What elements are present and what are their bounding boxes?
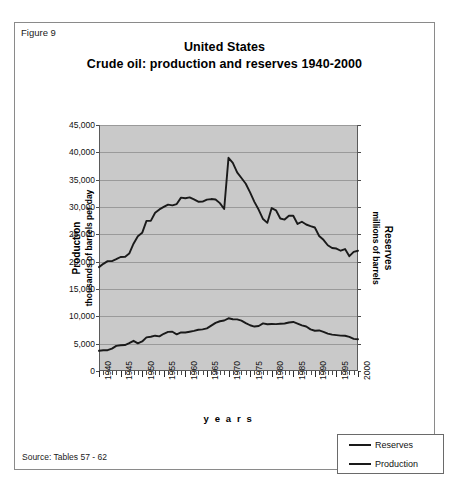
y-axis-title-line: Production (71, 190, 83, 307)
x-axis-tick-minor (129, 371, 130, 375)
x-axis-tick-minor (108, 371, 109, 375)
series-line-reserves (99, 158, 358, 267)
chart-title-line1: United States (15, 39, 434, 56)
y-axis-tick-mark (96, 125, 99, 126)
y2-axis-tick-mark (358, 125, 361, 126)
x-axis-tick-minor (246, 371, 247, 375)
y-axis-tick-mark (96, 262, 99, 263)
x-axis-tick-minor (211, 371, 212, 375)
x-axis-tick-minor (254, 371, 255, 375)
x-axis-tick-major (185, 371, 186, 377)
x-axis-tick-minor (341, 371, 342, 375)
y2-axis-tick-mark (358, 234, 361, 235)
y-axis-tick-mark (96, 234, 99, 235)
legend-item: Production (338, 454, 443, 473)
legend-line-icon (349, 463, 371, 465)
x-axis-tick-minor (134, 371, 135, 375)
x-axis-tick-major (142, 371, 143, 377)
x-axis-tick-minor (177, 371, 178, 375)
y-axis-tick-label: 45,000 (69, 120, 95, 130)
y-axis-tick-mark (96, 180, 99, 181)
y-axis-tick-label: 40,000 (69, 147, 95, 157)
x-axis-tick-minor (116, 371, 117, 375)
x-axis-tick-minor (328, 371, 329, 375)
y-axis-tick-mark (96, 289, 99, 290)
x-axis-tick-minor (267, 371, 268, 375)
x-axis-tick-minor (216, 371, 217, 375)
x-axis-tick-label: 2000 (362, 361, 372, 380)
legend-line-icon (349, 444, 371, 446)
legend-item: Reserves (338, 435, 443, 454)
y2-axis-title-line: Reserves (381, 211, 393, 284)
x-axis-tick-minor (103, 371, 104, 375)
x-axis-tick-major (99, 371, 100, 377)
x-axis-tick-minor (125, 371, 126, 375)
x-axis-tick-minor (237, 371, 238, 375)
y-axis-tick-label: 0 (90, 366, 95, 376)
y-axis-title-line: thousands of barrels per day (83, 190, 95, 307)
x-axis-tick-major (229, 371, 230, 377)
x-axis-title: y e a r s (99, 413, 358, 424)
x-axis-tick-major (207, 371, 208, 377)
x-axis-tick-minor (285, 371, 286, 375)
x-axis-tick-minor (172, 371, 173, 375)
x-axis-tick-minor (220, 371, 221, 375)
x-axis-tick-major (121, 371, 122, 377)
y2-axis-tick-mark (358, 262, 361, 263)
x-axis-tick-minor (311, 371, 312, 375)
y-axis-tick-mark (96, 316, 99, 317)
x-axis-tick-minor (159, 371, 160, 375)
plot-wrapper: 05,00010,00015,00020,00025,00030,00035,0… (99, 125, 358, 371)
y-axis-tick-mark (96, 344, 99, 345)
x-axis-tick-minor (181, 371, 182, 375)
x-axis-tick-minor (349, 371, 350, 375)
y2-axis-tick-mark (358, 180, 361, 181)
x-axis-tick-major (336, 371, 337, 377)
x-axis-tick-minor (155, 371, 156, 375)
x-axis-tick-minor (168, 371, 169, 375)
x-axis-tick-minor (276, 371, 277, 375)
y-axis-title: Productionthousands of barrels per day (71, 190, 95, 307)
x-axis-tick-minor (151, 371, 152, 375)
x-axis-tick-minor (319, 371, 320, 375)
y2-axis-title: Reservesmillions of barrels (369, 211, 393, 284)
y2-axis-tick-mark (358, 152, 361, 153)
x-axis-tick-minor (323, 371, 324, 375)
figure-frame: Figure 9 United States Crude oil: produc… (14, 22, 435, 470)
x-axis-tick-minor (289, 371, 290, 375)
figure-label: Figure 9 (21, 27, 56, 38)
x-axis-tick-major (358, 371, 359, 377)
x-axis-tick-minor (302, 371, 303, 375)
y-axis-tick-label: 35,000 (69, 175, 95, 185)
x-axis-tick-major (315, 371, 316, 377)
x-axis-tick-minor (190, 371, 191, 375)
x-axis-tick-minor (345, 371, 346, 375)
y-axis-tick-label: 5,000 (74, 339, 95, 349)
source-note: Source: Tables 57 - 62 (22, 452, 107, 462)
x-axis-tick-minor (233, 371, 234, 375)
x-axis-tick-major (272, 371, 273, 377)
y-axis-tick-mark (96, 207, 99, 208)
x-axis-tick-major (164, 371, 165, 377)
chart-lines (99, 125, 358, 371)
y2-axis-tick-mark (358, 344, 361, 345)
x-axis-tick-minor (298, 371, 299, 375)
chart-legend: ReservesProduction (337, 434, 444, 474)
x-axis-tick-minor (198, 371, 199, 375)
x-axis-tick-minor (112, 371, 113, 375)
x-axis-tick-major (250, 371, 251, 377)
x-axis-tick-minor (224, 371, 225, 375)
x-axis-tick-minor (138, 371, 139, 375)
x-axis-tick-major (293, 371, 294, 377)
y2-axis-tick-mark (358, 316, 361, 317)
chart-title-line2: Crude oil: production and reserves 1940-… (15, 56, 434, 73)
x-axis-tick-minor (146, 371, 147, 375)
x-axis-tick-minor (332, 371, 333, 375)
x-axis-tick-minor (194, 371, 195, 375)
x-axis-tick-minor (259, 371, 260, 375)
y-axis-tick-label: 10,000 (69, 311, 95, 321)
x-axis-tick-minor (241, 371, 242, 375)
y2-axis-tick-mark (358, 289, 361, 290)
x-axis-tick-minor (203, 371, 204, 375)
x-axis-tick-minor (280, 371, 281, 375)
